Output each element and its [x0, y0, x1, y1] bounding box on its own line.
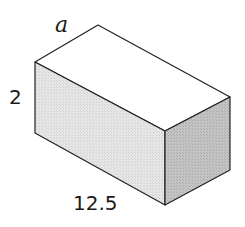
height-label: 2: [9, 85, 22, 109]
length-label: 12.5: [73, 191, 118, 215]
depth-label: a: [55, 12, 68, 37]
prism-diagram: a 2 12.5: [0, 0, 245, 227]
